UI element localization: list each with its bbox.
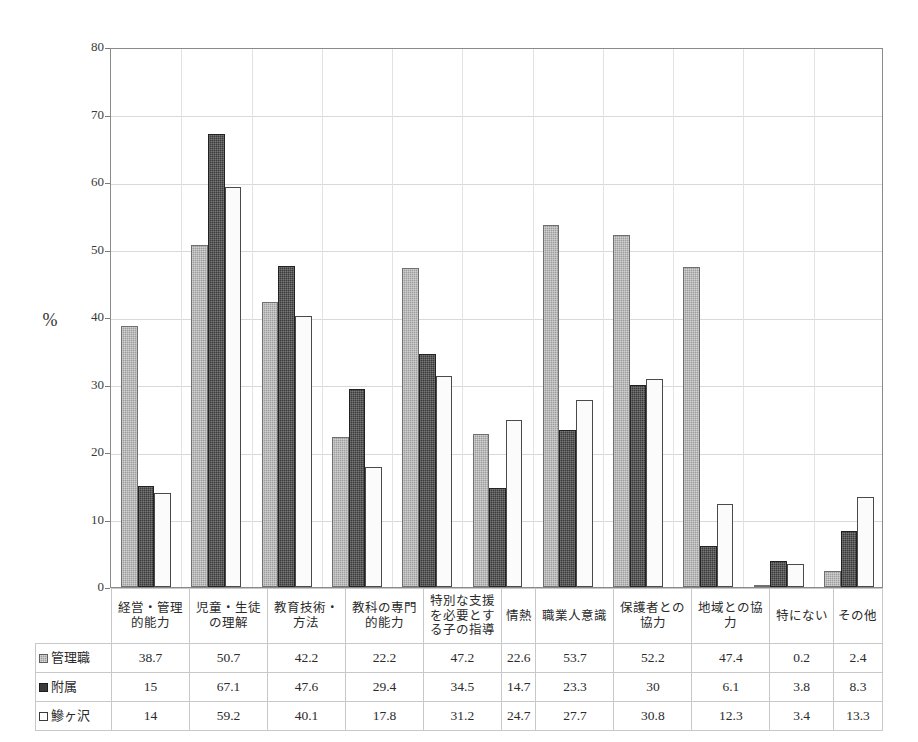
table-cell: 22.6 [501,644,536,673]
bar-鰺ヶ沢-7 [646,379,663,587]
bar-鰺ヶ沢-3 [365,467,382,587]
category-separator [392,49,393,587]
bar-管理職-7 [613,235,630,587]
table-cell: 3.4 [770,702,834,731]
bar-附属-0 [138,486,155,587]
category-separator [533,49,534,587]
table-row: 鰺ヶ沢1459.240.117.831.224.727.730.812.33.4… [36,702,883,731]
category-separator [743,49,744,587]
table-cell: 30 [614,673,692,702]
legend-swatch-icon [39,654,48,663]
category-separator [603,49,604,587]
y-axis-tick-label: 80 [42,39,104,55]
table-cell: 31.2 [423,702,501,731]
bar-鰺ヶ沢-10 [857,497,874,587]
legend-label: 附属 [51,679,77,694]
bar-鰺ヶ沢-4 [436,376,453,587]
table-cell: 27.7 [536,702,614,731]
table-cell: 67.1 [189,673,267,702]
bar-附属-10 [841,531,858,587]
column-header-4: 特別な支援を必要とする子の指導 [423,589,501,644]
column-header-8: 地域との協力 [692,589,770,644]
table-cell: 47.4 [692,644,770,673]
table-cell: 14.7 [501,673,536,702]
table-cell: 0.2 [770,644,834,673]
gridline [111,116,882,117]
bar-附属-5 [489,488,506,587]
legend-item-管理職[interactable]: 管理職 [36,644,112,673]
category-separator [814,49,815,587]
bar-管理職-10 [824,571,841,587]
bar-附属-1 [208,134,225,587]
bar-鰺ヶ沢-0 [154,493,171,588]
table-cell: 17.8 [345,702,423,731]
category-separator [322,49,323,587]
table-cell: 3.8 [770,673,834,702]
category-separator [673,49,674,587]
bar-管理職-3 [332,437,349,587]
legend-item-附属[interactable]: 附属 [36,673,112,702]
category-separator [252,49,253,587]
table-corner-cell [36,589,112,644]
y-axis-tick-label: 40 [42,309,104,325]
column-header-1: 児童・生徒の理解 [189,589,267,644]
bar-附属-4 [419,354,436,587]
table-cell: 53.7 [536,644,614,673]
table-cell: 13.3 [833,702,882,731]
bar-chart-figure: % 01020304050607080 経営・管理的能力児童・生徒の理解教育技術… [0,0,918,742]
table-cell: 8.3 [833,673,882,702]
gridline [111,184,882,185]
column-header-3: 教科の専門的能力 [345,589,423,644]
table-cell: 47.6 [267,673,345,702]
bar-管理職-8 [683,267,700,587]
y-axis-tick-label: 70 [42,107,104,123]
y-axis-tick-label: 30 [42,377,104,393]
table-cell: 29.4 [345,673,423,702]
table-cell: 47.2 [423,644,501,673]
bar-鰺ヶ沢-8 [717,504,734,587]
legend-swatch-icon [39,712,48,721]
y-axis-tick-label: 60 [42,174,104,190]
legend-item-鰺ヶ沢[interactable]: 鰺ヶ沢 [36,702,112,731]
column-header-9: 特にない [770,589,834,644]
bar-管理職-6 [543,225,560,587]
table-cell: 59.2 [189,702,267,731]
legend-label: 鰺ヶ沢 [51,708,90,723]
table-header-row: 経営・管理的能力児童・生徒の理解教育技術・方法教科の専門的能力特別な支援を必要と… [36,589,883,644]
table-cell: 22.2 [345,644,423,673]
table-body: 管理職38.750.742.222.247.222.653.752.247.40… [36,644,883,731]
bar-鰺ヶ沢-5 [506,420,523,587]
column-header-5: 情熱 [501,589,536,644]
bar-鰺ヶ沢-9 [787,564,804,587]
table-cell: 14 [112,702,190,731]
table-cell: 40.1 [267,702,345,731]
bar-管理職-0 [121,326,138,587]
bar-管理職-2 [262,302,279,587]
table-cell: 2.4 [833,644,882,673]
table-row: 管理職38.750.742.222.247.222.653.752.247.40… [36,644,883,673]
legend-label: 管理職 [51,650,90,665]
y-axis-tick-label: 10 [42,512,104,528]
table-cell: 23.3 [536,673,614,702]
bar-附属-2 [278,266,295,587]
table-cell: 15 [112,673,190,702]
table-cell: 52.2 [614,644,692,673]
legend-swatch-icon [39,683,48,692]
bar-鰺ヶ沢-2 [295,316,312,587]
plot-area [110,48,883,588]
column-header-7: 保護者との協力 [614,589,692,644]
bar-管理職-4 [402,268,419,587]
bar-附属-8 [700,546,717,587]
table-cell: 50.7 [189,644,267,673]
table-cell: 12.3 [692,702,770,731]
bar-管理職-5 [473,434,490,587]
table-cell: 24.7 [501,702,536,731]
table-cell: 30.8 [614,702,692,731]
data-table: 経営・管理的能力児童・生徒の理解教育技術・方法教科の専門的能力特別な支援を必要と… [35,588,883,731]
bar-附属-7 [630,385,647,588]
y-axis-tick-label: 20 [42,444,104,460]
bar-附属-3 [349,389,366,587]
bar-鰺ヶ沢-1 [225,187,242,587]
bar-附属-6 [559,430,576,587]
table-cell: 34.5 [423,673,501,702]
